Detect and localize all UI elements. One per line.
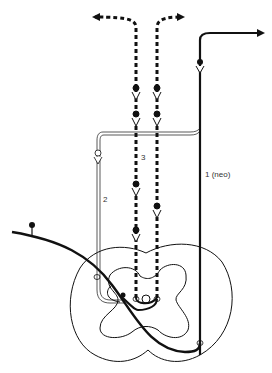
grey-matter-outline bbox=[100, 265, 189, 338]
label-tract-3: 3 bbox=[141, 153, 146, 162]
tract-1-marker-dot bbox=[197, 59, 203, 65]
label-tract-1: 1 (neo) bbox=[205, 170, 231, 179]
pathway-diagram: 1 (neo) 2 3 bbox=[0, 0, 272, 373]
tract-1-marker-v bbox=[196, 66, 204, 73]
tract-3-dashed bbox=[95, 17, 182, 303]
tract-2-marker bbox=[95, 150, 101, 156]
tract-1-neo bbox=[200, 33, 262, 355]
tract-2-double bbox=[97, 128, 200, 303]
tract-2-marker-v bbox=[94, 157, 102, 164]
central-canal bbox=[142, 295, 150, 303]
afferent-terminal bbox=[121, 293, 126, 298]
label-tract-2: 2 bbox=[103, 195, 108, 204]
cell-body-icon bbox=[29, 222, 35, 228]
primary-afferent-fiber bbox=[12, 232, 200, 352]
